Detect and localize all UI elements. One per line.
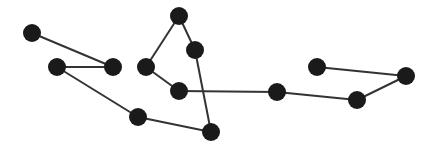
graph-edge <box>277 92 357 100</box>
graph-edge <box>179 91 277 92</box>
graph-node <box>202 123 220 141</box>
graph-node <box>170 7 188 25</box>
graph-node <box>170 82 188 100</box>
graph-node <box>268 83 286 101</box>
graph-svg <box>0 0 436 155</box>
graph-node <box>348 91 366 109</box>
graph-node <box>186 41 204 59</box>
graph-node <box>23 24 41 42</box>
graph-node <box>104 58 122 76</box>
graph-edge <box>138 117 211 132</box>
graph-node <box>137 58 155 76</box>
graph-node <box>397 67 415 85</box>
graph-node <box>48 58 66 76</box>
graph-edge <box>146 16 179 67</box>
graph-diagram <box>0 0 436 155</box>
graph-edge <box>317 67 406 76</box>
edge-layer <box>32 16 406 132</box>
graph-node <box>308 58 326 76</box>
graph-node <box>129 108 147 126</box>
graph-edge <box>57 67 138 117</box>
node-layer <box>23 7 415 141</box>
graph-edge <box>32 33 113 67</box>
